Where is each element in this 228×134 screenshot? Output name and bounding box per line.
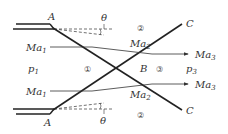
streamline-bottom — [50, 84, 188, 91]
region-2-top: ② — [137, 24, 144, 33]
label-c-bottom: C — [186, 105, 194, 116]
streamline-top — [50, 47, 188, 54]
region-2-bottom: ② — [137, 111, 144, 120]
label-ma3-bottom: Ma3 — [194, 79, 216, 92]
label-ma2-bottom: Ma2 — [129, 89, 151, 102]
bottom-wall — [13, 109, 54, 114]
label-c-top: C — [186, 18, 194, 29]
label-a-top: A — [47, 11, 55, 22]
label-theta-top: θ — [101, 12, 107, 23]
label-ma2-top: Ma2 — [129, 38, 151, 51]
label-ma1-top: Ma1 — [25, 42, 47, 55]
label-ma3-top: Ma3 — [194, 49, 216, 62]
label-ma1-bottom: Ma1 — [25, 86, 47, 99]
bottom-angle-lines — [54, 103, 112, 114]
label-p1: p1 — [28, 63, 39, 76]
label-b: B — [139, 63, 147, 74]
label-theta-bottom: θ — [100, 115, 106, 126]
top-wall — [13, 24, 54, 29]
label-a-bottom: A — [43, 117, 51, 128]
region-1: ① — [84, 65, 91, 74]
label-p3: p3 — [186, 63, 197, 76]
region-3: ③ — [156, 65, 163, 74]
shock-intersection-diagram: A A θ θ C C B ② ① ③ ② p1 p3 Ma1 Ma1 Ma2 … — [0, 0, 228, 134]
